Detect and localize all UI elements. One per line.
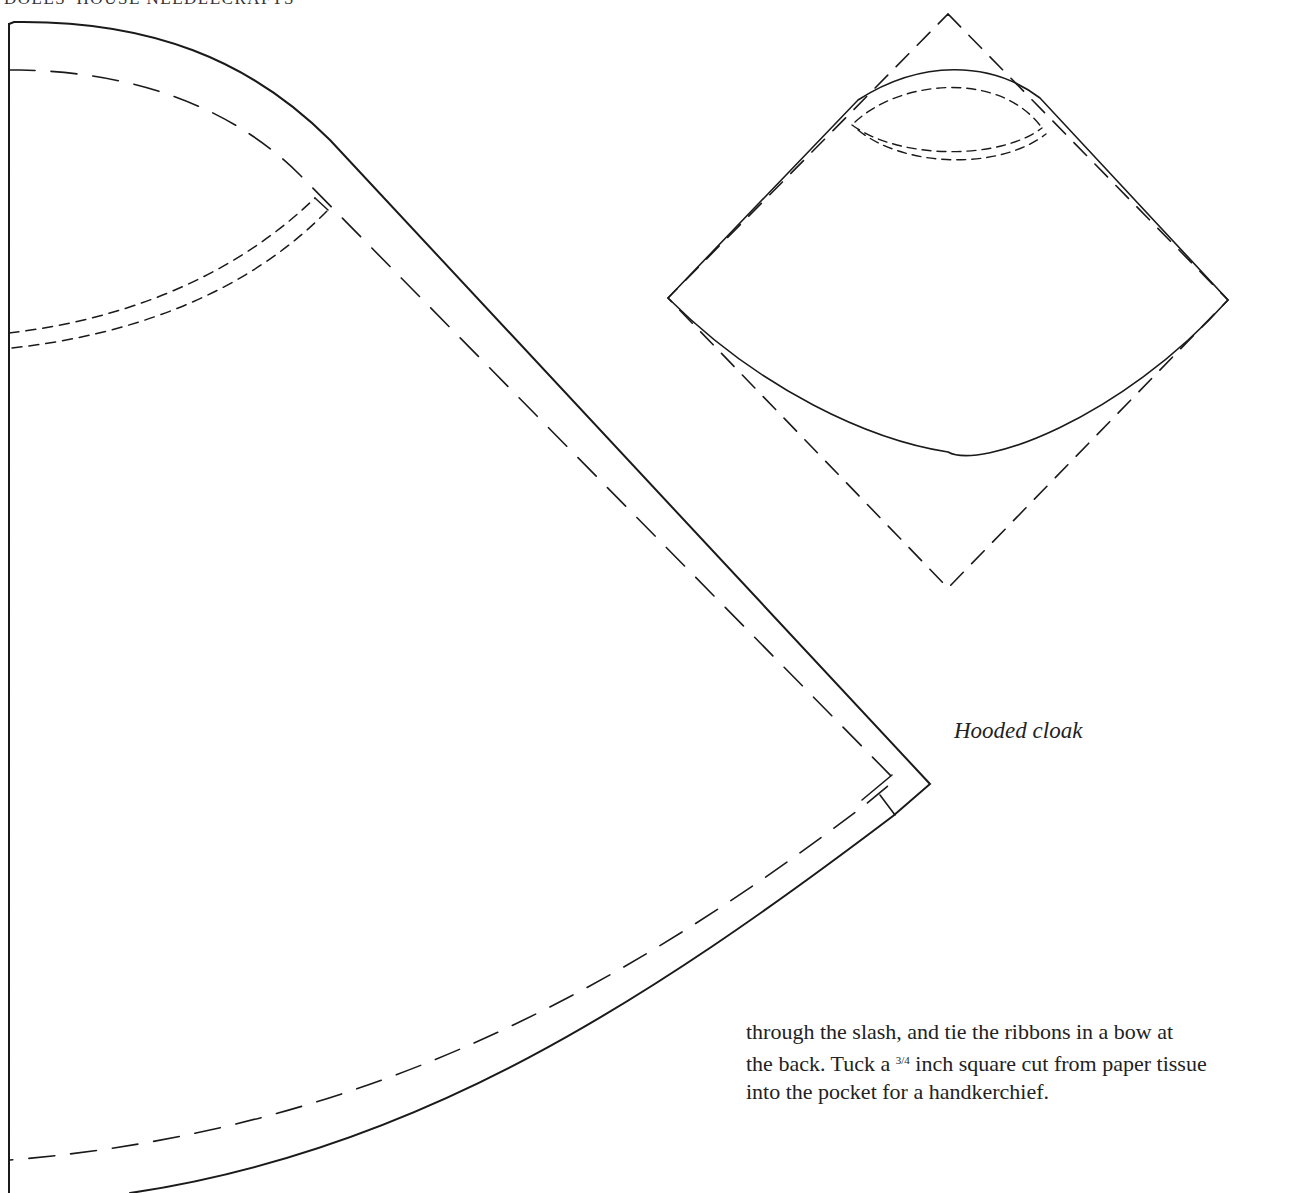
body-line-2-start: the back. Tuck a <box>746 1051 896 1076</box>
body-line-3: into the pocket for a handkerchief. <box>746 1078 1284 1106</box>
fraction-three-quarters: 3/4 <box>896 1054 910 1066</box>
body-paragraph: through the slash, and tie the ribbons i… <box>746 1018 1284 1106</box>
body-line-2-end: inch square cut from paper tissue <box>910 1051 1207 1076</box>
body-line-1: through the slash, and tie the ribbons i… <box>746 1018 1284 1046</box>
hooded-cloak-pattern-diagram <box>0 0 1292 1193</box>
hood-piece <box>668 14 1228 588</box>
body-line-2: the back. Tuck a 3/4 inch square cut fro… <box>746 1046 1284 1078</box>
figure-caption: Hooded cloak <box>954 718 1082 744</box>
